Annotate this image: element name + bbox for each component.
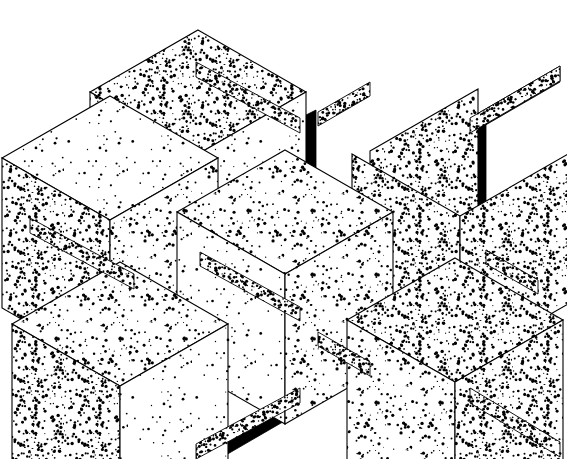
illusion-drawing: Tumbling blocks isometric illusion Six s… xyxy=(0,0,567,459)
isometric-illusion-figure: Tumbling blocks isometric illusion Six s… xyxy=(0,0,567,459)
